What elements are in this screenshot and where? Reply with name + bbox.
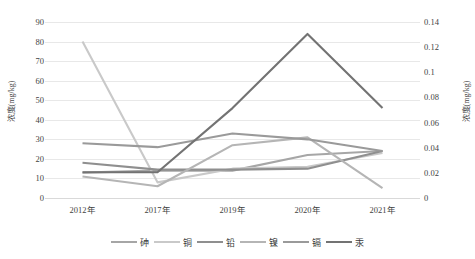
legend-label: 汞: [355, 236, 364, 249]
y-axis-right-title: 浓度(mg/kg): [460, 70, 471, 134]
legend-label: 铅: [226, 236, 235, 249]
plot-area: [45, 22, 420, 198]
y-axis-right-tick: 0.1: [424, 68, 435, 77]
legend-item[interactable]: 镉: [283, 236, 321, 249]
x-axis-labels: 2012年2017年2019年2020年2021年: [45, 203, 420, 219]
legend-swatch: [154, 241, 180, 243]
series-line: [83, 133, 383, 151]
series-line: [83, 34, 383, 172]
legend-swatch: [111, 241, 137, 243]
legend-swatch: [326, 241, 352, 243]
legend-label: 砷: [140, 236, 149, 249]
legend-item[interactable]: 铅: [197, 236, 235, 249]
line-chart: 浓度(mg/kg) 浓度(mg/kg) 9080706050403020100 …: [0, 0, 475, 259]
y-axis-right-tick: 0.08: [424, 93, 439, 102]
legend-swatch: [240, 241, 266, 243]
y-axis-left-ticks: 9080706050403020100: [10, 0, 44, 259]
legend-label: 铜: [183, 236, 192, 249]
y-axis-left-tick: 50: [36, 96, 45, 105]
y-axis-right-tick: 0.06: [424, 119, 439, 128]
legend-item[interactable]: 铜: [154, 236, 192, 249]
series-lines: [45, 22, 420, 198]
x-axis-label: 2021年: [345, 203, 420, 219]
y-axis-right-tick: 0.14: [424, 18, 439, 27]
y-axis-left-tick: 20: [36, 155, 45, 164]
y-axis-left-tick: 80: [36, 38, 45, 47]
x-axis-label: 2012年: [45, 203, 120, 219]
x-axis-label: 2019年: [195, 203, 270, 219]
legend: 砷铜铅镍镉汞: [0, 232, 475, 252]
x-axis-label: 2017年: [120, 203, 195, 219]
y-axis-left-tick: 40: [36, 116, 45, 125]
y-axis-left-tick: 10: [36, 174, 45, 183]
y-axis-right-tick: 0: [424, 194, 428, 203]
gridline: [45, 198, 420, 199]
x-axis-label: 2020年: [270, 203, 345, 219]
legend-item[interactable]: 砷: [111, 236, 149, 249]
legend-item[interactable]: 镍: [240, 236, 278, 249]
y-axis-left-tick: 90: [36, 18, 45, 27]
legend-swatch: [197, 241, 223, 243]
legend-label: 镉: [312, 236, 321, 249]
legend-label: 镍: [269, 236, 278, 249]
y-axis-right-tick: 0.12: [424, 43, 439, 52]
y-axis-right-tick: 0.04: [424, 144, 439, 153]
y-axis-left-tick: 30: [36, 135, 45, 144]
legend-item[interactable]: 汞: [326, 236, 364, 249]
y-axis-left-tick: 60: [36, 77, 45, 86]
y-axis-left-tick: 70: [36, 57, 45, 66]
legend-swatch: [283, 241, 309, 243]
y-axis-left-tick: 0: [40, 194, 44, 203]
y-axis-right-tick: 0.02: [424, 169, 439, 178]
y-axis-right-ticks: 0.140.120.10.080.060.040.020: [424, 0, 458, 259]
